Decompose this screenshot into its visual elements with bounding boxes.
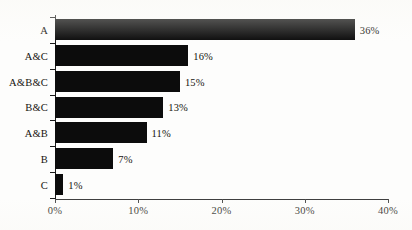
bar-value-label: 15% [185,76,205,87]
y-axis-tick [50,95,55,96]
bar [55,174,63,195]
category-label: B&C [25,102,48,113]
bar [55,71,180,92]
category-label: C [41,180,48,191]
bar-value-label: 13% [168,102,188,113]
bar [55,97,163,118]
y-axis-tick [50,120,55,121]
category-label: A&C [25,50,48,61]
x-axis-tick-label: 30% [295,205,315,216]
bar-row: A&B11% [55,120,388,146]
x-axis-tick-label: 20% [212,205,232,216]
bar-row: A36% [55,17,388,43]
y-axis-tick [50,146,55,147]
bar-chart: A36%A&C16%A&B&C15%B&C13%A&B11%B7%C1% 0%1… [0,0,412,230]
bar-row: B7% [55,146,388,172]
bar-row: A&B&C15% [55,69,388,95]
bar-value-label: 36% [360,24,380,35]
x-axis-tick [305,199,306,203]
bar-value-label: 1% [68,180,82,191]
x-axis-tick [55,199,56,203]
y-axis-tick [50,172,55,173]
x-axis-tick [138,199,139,203]
bar-row: A&C16% [55,43,388,69]
y-axis-tick [50,17,55,18]
bar [55,45,188,66]
category-label: B [41,154,48,165]
x-axis-tick [222,199,223,203]
bar-value-label: 7% [118,154,132,165]
bar-value-label: 11% [152,128,171,139]
x-axis-tick [388,199,389,203]
bar [55,148,113,169]
x-axis-tick-label: 40% [378,205,398,216]
plot-area: A36%A&C16%A&B&C15%B&C13%A&B11%B7%C1% [55,17,388,198]
x-axis-tick-label: 10% [128,205,148,216]
bar-value-label: 16% [193,50,213,61]
bar-row: C1% [55,172,388,198]
y-axis-tick [50,43,55,44]
bar-row: B&C13% [55,95,388,121]
bar [55,19,355,40]
category-label: A&B&C [9,76,48,87]
y-axis-tick [50,69,55,70]
category-label: A [40,24,48,35]
x-axis-tick-label: 0% [48,205,62,216]
category-label: A&B [25,128,48,139]
bar [55,122,147,143]
